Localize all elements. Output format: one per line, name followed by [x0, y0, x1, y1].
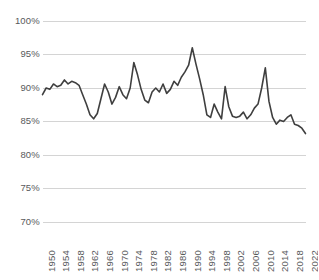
x-tick-label-1950: 1950 — [47, 250, 57, 272]
x-tick-label-1986: 1986 — [178, 250, 188, 272]
x-tick-label-2014: 2014 — [280, 250, 290, 272]
x-tick-label-1966: 1966 — [105, 250, 115, 272]
x-tick-label-1958: 1958 — [76, 250, 86, 272]
x-tick-label-2022: 2022 — [310, 250, 319, 272]
x-tick-label-1954: 1954 — [61, 250, 71, 272]
x-tick-label-1994: 1994 — [207, 250, 217, 272]
x-tick-label-1962: 1962 — [90, 250, 100, 272]
x-tick-label-1974: 1974 — [134, 250, 144, 272]
x-tick-label-1990: 1990 — [193, 250, 203, 272]
x-tick-label-2018: 2018 — [295, 250, 305, 272]
x-tick-label-2006: 2006 — [251, 250, 261, 272]
x-axis-tick-labels: 1950195419581962196619701974197819821986… — [0, 0, 318, 280]
x-tick-label-1970: 1970 — [120, 250, 130, 272]
x-tick-label-1998: 1998 — [222, 250, 232, 272]
x-tick-label-2002: 2002 — [236, 250, 246, 272]
chart-container: 70%75%80%85%90%95%100% 19501954195819621… — [0, 0, 318, 280]
x-tick-label-1978: 1978 — [149, 250, 159, 272]
x-tick-label-1982: 1982 — [163, 250, 173, 272]
x-tick-label-2010: 2010 — [266, 250, 276, 272]
